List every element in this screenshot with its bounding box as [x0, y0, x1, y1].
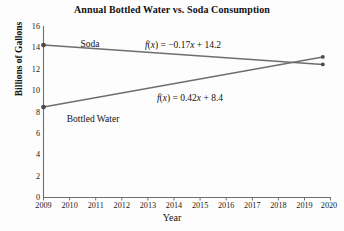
bottled-water-end-marker: [321, 55, 325, 59]
x-tick-2011: 2011: [88, 201, 104, 210]
soda-start-marker: [41, 43, 46, 48]
x-tick-2017: 2017: [244, 201, 260, 210]
soda-end-marker: [321, 63, 325, 67]
x-axis-title: Year: [0, 212, 344, 223]
y-tick-16: 16: [32, 22, 40, 31]
x-tick-2013: 2013: [140, 201, 156, 210]
x-tick-2019: 2019: [296, 201, 312, 210]
soda-equation-annotation: f(x) = −0.17x + 14.2: [145, 40, 221, 51]
y-tick-12: 12: [32, 65, 40, 74]
y-tick-14: 14: [32, 43, 40, 52]
x-tick-2010: 2010: [61, 201, 77, 210]
x-tick-2012: 2012: [114, 201, 130, 210]
axis-lines: [44, 26, 332, 198]
x-axis-tick-labels: 2009 2010 2011 2012 2013 2014 2015 2016 …: [35, 201, 337, 210]
y-tick-8: 8: [36, 108, 40, 117]
x-tick-2015: 2015: [192, 201, 208, 210]
x-tick-2018: 2018: [270, 201, 286, 210]
chart-container: Annual Bottled Water vs. Soda Consumptio…: [0, 0, 344, 231]
y-tick-2: 2: [36, 172, 40, 181]
y-axis-tick-labels: 16 14 12 10 8 6 4 2 0: [32, 22, 40, 202]
x-tick-2016: 2016: [218, 201, 234, 210]
x-tick-2009: 2009: [35, 201, 51, 210]
y-tick-6: 6: [36, 129, 40, 138]
bottled-water-series-label: Bottled Water: [67, 114, 120, 124]
y-tick-4: 4: [36, 150, 40, 159]
plot-area: 16 14 12 10 8 6 4 2 0: [0, 0, 344, 231]
bottled-water-equation-annotation: f(x) = 0.42x + 8.4: [157, 93, 223, 104]
bottled-water-start-marker: [41, 105, 46, 110]
x-tick-2014: 2014: [166, 201, 182, 210]
y-tick-10: 10: [32, 86, 40, 95]
soda-series-label: Soda: [81, 39, 101, 49]
x-tick-2020: 2020: [321, 201, 337, 210]
